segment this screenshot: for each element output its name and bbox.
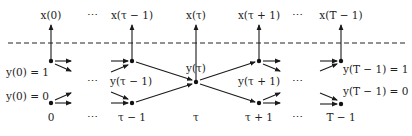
label-x0: x(0) [41, 9, 62, 21]
top-ellipsis-2: ⋯ [292, 9, 303, 21]
bottom-ellipsis-1: ⋯ [87, 111, 98, 123]
middle-ellipsis-1: ⋯ [87, 75, 98, 87]
label-yT-eq-0: y(T − 1) = 0 [342, 85, 408, 97]
label-y0-eq-0: y(0) = 0 [5, 90, 49, 102]
state-labels: y(0) = 1 y(0) = 0 ⋯ y(τ − 1) y(τ) y(τ + … [5, 62, 408, 102]
stub-arrow [320, 64, 337, 71]
stub-arrow [55, 93, 71, 100]
label-x-tau: x(τ) [186, 9, 206, 21]
stub-arrow [263, 93, 280, 100]
node-tau [194, 80, 198, 84]
node-tau-minus-1-top [130, 59, 134, 63]
label-x-tau-plus-1: x(τ + 1) [238, 9, 280, 21]
time-label-T-minus-1: T − 1 [326, 111, 355, 123]
time-label-tau-plus-1: τ + 1 [245, 111, 273, 123]
node-tau-plus-1-bottom [257, 101, 261, 105]
trellis-diagram: x(0) ⋯ x(τ − 1) x(τ) x(τ + 1) ⋯ x(T − 1) [0, 0, 412, 136]
stub-arrow [55, 64, 71, 71]
time-label-tau: τ [193, 111, 199, 123]
label-y-tau-minus-1: y(τ − 1) [109, 75, 152, 87]
label-y-tau: y(τ) [185, 62, 206, 74]
bottom-ellipsis-2: ⋯ [292, 111, 303, 123]
stub-arrow [320, 93, 337, 100]
node-tau-plus-1-top [257, 59, 261, 63]
label-x-tau-minus-1: x(τ − 1) [111, 9, 153, 21]
time-labels: 0 ⋯ τ − 1 τ τ + 1 ⋯ T − 1 [48, 111, 356, 123]
time-label-0: 0 [48, 111, 55, 123]
node-T-minus-1-bottom [339, 102, 343, 106]
stub-arrow [263, 64, 280, 71]
label-yT-eq-1: y(T − 1) = 1 [342, 63, 408, 75]
node-tau-minus-1-bottom [130, 101, 134, 105]
top-ellipsis-1: ⋯ [87, 9, 98, 21]
stub-arrow [111, 65, 128, 72]
label-y0-eq-1: y(0) = 1 [5, 66, 49, 78]
label-y-tau-plus-1: y(τ + 1) [237, 75, 280, 87]
label-x-T-minus-1: x(T − 1) [319, 9, 362, 21]
middle-ellipsis-2: ⋯ [292, 75, 303, 87]
time-label-tau-minus-1: τ − 1 [118, 111, 146, 123]
stub-arrow [111, 92, 128, 99]
node-0-bottom [49, 101, 53, 105]
observation-labels: x(0) ⋯ x(τ − 1) x(τ) x(τ + 1) ⋯ x(T − 1) [41, 9, 363, 21]
node-0-top [49, 59, 53, 63]
